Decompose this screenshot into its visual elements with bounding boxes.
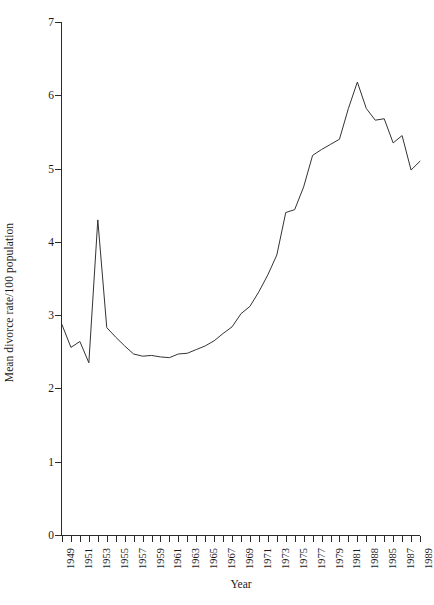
x-tick-label: 1951: [84, 545, 95, 569]
x-tick-mark: [411, 536, 412, 542]
y-tick-mark: [55, 169, 61, 170]
x-tick-mark: [322, 536, 323, 542]
x-tick-mark: [187, 536, 188, 542]
divorce-rate-path: [62, 82, 420, 363]
x-tick-mark: [125, 536, 126, 542]
y-tick-label: 1: [36, 457, 54, 469]
x-tick-mark: [178, 536, 179, 542]
y-tick-mark: [55, 388, 61, 389]
y-tick-label: 0: [36, 530, 54, 542]
x-tick-mark: [232, 536, 233, 542]
x-tick-mark: [152, 536, 153, 542]
x-tick-mark: [331, 536, 332, 542]
x-tick-mark: [223, 536, 224, 542]
x-tick-mark: [268, 536, 269, 542]
x-tick-label: 1977: [317, 545, 328, 569]
x-tick-mark: [214, 536, 215, 542]
x-tick-mark: [304, 536, 305, 542]
x-tick-mark: [160, 536, 161, 542]
y-tick-mark: [55, 95, 61, 96]
y-tick-label: 6: [36, 90, 54, 102]
data-series-line: [62, 22, 420, 535]
x-tick-mark: [366, 536, 367, 542]
x-tick-mark: [348, 536, 349, 542]
x-tick-mark: [196, 536, 197, 542]
x-tick-mark: [286, 536, 287, 542]
plot-area: 01234567 1949195119531955195719591961196…: [62, 22, 420, 535]
x-tick-mark: [420, 536, 421, 542]
x-tick-mark: [98, 536, 99, 542]
x-tick-mark: [357, 536, 358, 542]
y-tick-label: 2: [36, 383, 54, 395]
y-tick-label: 3: [36, 310, 54, 322]
x-tick-label: 1959: [156, 545, 167, 569]
y-tick-label: 5: [36, 164, 54, 176]
x-tick-mark: [89, 536, 90, 542]
x-tick-label: 1975: [299, 545, 310, 569]
divorce-rate-line-chart: Mean divorce rate/100 population 0123456…: [0, 0, 434, 605]
x-tick-label: 1987: [406, 545, 417, 569]
x-tick-mark: [259, 536, 260, 542]
x-tick-label: 1957: [138, 545, 149, 569]
y-tick-mark: [55, 242, 61, 243]
x-tick-mark: [116, 536, 117, 542]
x-tick-mark: [241, 536, 242, 542]
x-tick-mark: [107, 536, 108, 542]
x-tick-label: 1961: [173, 545, 184, 569]
y-tick-mark: [55, 535, 61, 536]
x-tick-label: 1949: [66, 545, 77, 569]
y-tick-mark: [55, 315, 61, 316]
x-tick-label: 1963: [191, 545, 202, 569]
x-tick-label: 1965: [209, 545, 220, 569]
y-axis-title: Mean divorce rate/100 population: [0, 0, 20, 605]
x-tick-mark: [393, 536, 394, 542]
x-tick-label: 1969: [245, 545, 256, 569]
x-tick-mark: [339, 536, 340, 542]
x-tick-label: 1989: [424, 545, 434, 569]
x-tick-label: 1981: [352, 545, 363, 569]
x-tick-mark: [62, 536, 63, 542]
x-tick-mark: [375, 536, 376, 542]
y-tick-label: 7: [36, 17, 54, 29]
x-tick-mark: [402, 536, 403, 542]
x-axis-title: Year: [62, 578, 420, 590]
x-tick-mark: [143, 536, 144, 542]
x-tick-label: 1979: [335, 545, 346, 569]
y-tick-label: 4: [36, 237, 54, 249]
x-tick-mark: [277, 536, 278, 542]
x-tick-mark: [169, 536, 170, 542]
x-tick-label: 1955: [120, 545, 131, 569]
y-tick-mark: [55, 462, 61, 463]
x-tick-mark: [250, 536, 251, 542]
x-tick-label: 1967: [227, 545, 238, 569]
x-tick-mark: [295, 536, 296, 542]
x-tick-mark: [205, 536, 206, 542]
x-tick-mark: [313, 536, 314, 542]
x-tick-mark: [80, 536, 81, 542]
x-tick-mark: [134, 536, 135, 542]
y-axis-title-text: Mean divorce rate/100 population: [3, 223, 15, 382]
x-tick-mark: [71, 536, 72, 542]
x-tick-label: 1973: [281, 545, 292, 569]
x-tick-label: 1988: [370, 545, 381, 569]
x-tick-label: 1971: [263, 545, 274, 569]
x-tick-label: 1985: [388, 545, 399, 569]
x-tick-mark: [384, 536, 385, 542]
y-tick-mark: [55, 22, 61, 23]
x-tick-label: 1953: [102, 545, 113, 569]
